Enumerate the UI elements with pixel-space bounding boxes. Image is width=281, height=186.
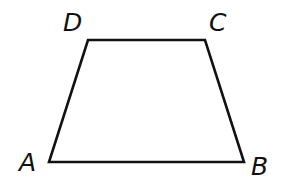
vertex-label-b: B	[251, 154, 268, 179]
vertex-label-d: D	[63, 10, 82, 35]
vertex-label-a: A	[19, 150, 36, 175]
vertex-label-c: C	[209, 10, 226, 35]
trapezoid-diagram: D C A B	[0, 0, 281, 186]
trapezoid-shape	[0, 0, 281, 186]
